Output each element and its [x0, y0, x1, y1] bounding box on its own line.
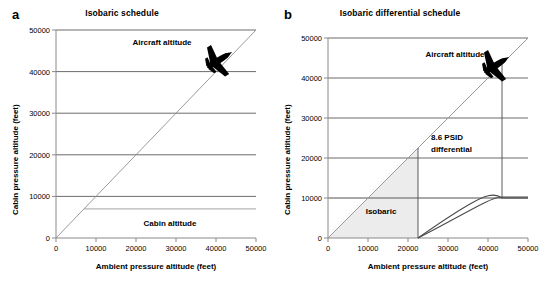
x-tick-label: 20000 [398, 244, 419, 253]
annotation-isobaric: Isobaric [366, 207, 397, 216]
annotation-psid-line2: differential [431, 145, 472, 154]
y-tick-label: 50000 [29, 26, 50, 35]
annotation-aircraft-altitude-a: Aircraft altitude [132, 38, 192, 47]
plot-area-b: 50000 40000 30000 20000 10000 0 0 10000 [270, 0, 540, 286]
x-tick-label: 0 [54, 244, 58, 253]
x-tick-label: 40000 [478, 244, 499, 253]
cabin-schedule-curve-main [418, 197, 528, 238]
y-tick-label: 30000 [301, 114, 322, 123]
y-tick-label: 30000 [29, 109, 50, 118]
cabin-schedule-curve [418, 195, 528, 238]
y-tick-label: 0 [46, 234, 50, 243]
y-ticks-a [52, 30, 56, 238]
annotation-aircraft-altitude-b: Aircraft altitude [425, 50, 485, 59]
x-tick-label: 0 [326, 244, 330, 253]
annotation-cabin-altitude-a: Cabin altitude [144, 219, 197, 228]
chart-panel-b: b Isobaric differential schedule Cabin p… [270, 0, 540, 286]
figure-container: a Isobaric schedule Cabin pressure altit… [0, 0, 540, 286]
plot-area-a: 50000 40000 30000 20000 10000 0 0 10000 [0, 0, 270, 286]
x-ticks-a [56, 238, 256, 242]
x-tick-labels-a: 0 10000 20000 30000 40000 50000 [54, 244, 267, 253]
y-tick-label: 10000 [301, 194, 322, 203]
x-tick-label: 30000 [166, 244, 187, 253]
chart-panel-a: a Isobaric schedule Cabin pressure altit… [0, 0, 270, 286]
y-tick-labels-a: 50000 40000 30000 20000 10000 0 [29, 26, 50, 243]
y-tick-label: 10000 [29, 192, 50, 201]
x-ticks-b [328, 238, 528, 242]
x-tick-label: 10000 [358, 244, 379, 253]
y-tick-label: 20000 [301, 154, 322, 163]
y-tick-label: 40000 [29, 68, 50, 77]
annotation-psid-line1: 8.6 PSID [431, 133, 463, 142]
y-tick-labels-b: 50000 40000 30000 20000 10000 0 [301, 34, 322, 243]
y-tick-label: 20000 [29, 151, 50, 160]
x-tick-label: 50000 [246, 244, 267, 253]
y-ticks-b [324, 38, 328, 238]
x-tick-label: 50000 [518, 244, 539, 253]
y-tick-label: 50000 [301, 34, 322, 43]
y-tick-label: 0 [318, 234, 322, 243]
aircraft-altitude-line-a [56, 30, 256, 238]
y-tick-label: 40000 [301, 74, 322, 83]
x-tick-label: 40000 [206, 244, 227, 253]
x-tick-label: 20000 [126, 244, 147, 253]
x-tick-labels-b: 0 10000 20000 30000 40000 50000 [326, 244, 539, 253]
x-tick-label: 10000 [86, 244, 107, 253]
aircraft-altitude-line-b [328, 38, 528, 238]
x-tick-label: 30000 [438, 244, 459, 253]
aircraft-silhouette-icon [198, 37, 241, 82]
